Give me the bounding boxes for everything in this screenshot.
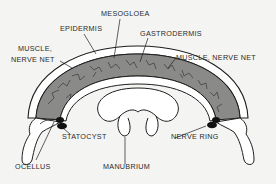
label-muscle-left-line2: NERVE NET xyxy=(11,56,55,64)
label-muscle-left-line1: MUSCLE, xyxy=(18,45,52,53)
label-mesogloea: MESOGLOEA xyxy=(101,10,150,18)
label-manubrium: MANUBRIUM xyxy=(103,163,150,171)
manubrium-right-lobe xyxy=(146,116,158,136)
label-statocyst: STATOCYST xyxy=(62,133,107,141)
medusa-illustration xyxy=(0,0,276,184)
label-ocellus: OCELLUS xyxy=(15,163,51,171)
left-statocyst-blob xyxy=(56,117,64,123)
right-tentacle xyxy=(216,118,254,165)
left-tentacle xyxy=(22,118,60,165)
left-ocellus-blob xyxy=(57,123,67,129)
diagram-canvas: MESOGLOEA EPIDERMIS GASTRODERMIS MUSCLE,… xyxy=(0,0,276,184)
label-nerve-ring: NERVE RING xyxy=(171,133,219,141)
label-gastrodermis: GASTRODERMIS xyxy=(140,30,202,38)
label-epidermis: EPIDERMIS xyxy=(60,25,102,33)
label-muscle-right: MUSCLE, NERVE NET xyxy=(176,54,256,62)
manubrium-left-lobe xyxy=(118,116,130,136)
right-nerve-ring-blob-2 xyxy=(207,122,217,128)
gastric-cavity xyxy=(98,88,179,121)
